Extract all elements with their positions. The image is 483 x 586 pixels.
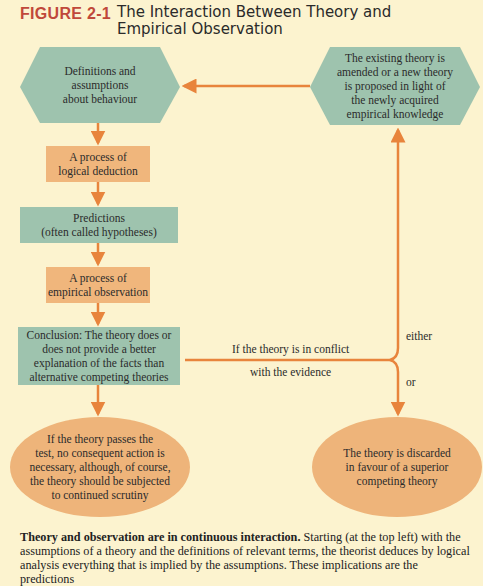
conclusion-line: Conclusion: The theory does or [27, 328, 172, 342]
amended-line: amended or a new theory [337, 65, 453, 79]
definitions-line: about behaviour [63, 92, 137, 106]
predictions-line: (often called hypotheses) [41, 225, 157, 239]
logical-deduction-line: logical deduction [58, 164, 138, 178]
caption-bold: Theory and observation are in continuous… [20, 530, 300, 544]
logical-deduction-line: A process of [58, 150, 138, 164]
discarded-node: The theory is discarded in favour of a s… [312, 417, 482, 517]
definitions-line: Definitions and [63, 64, 137, 78]
amended-line: the newly acquired [337, 93, 453, 107]
conclusion-node: Conclusion: The theory does or does not … [18, 327, 180, 385]
empirical-observation-line: empirical observation [48, 285, 148, 299]
predictions-line: Predictions [41, 211, 157, 225]
amended-line: empirical knowledge [337, 107, 453, 121]
empirical-observation-node: A process of empirical observation [46, 267, 150, 303]
passes-test-node: If the theory passes the test, no conseq… [10, 417, 190, 517]
discarded-line: competing theory [343, 474, 451, 488]
figure-caption: Theory and observation are in continuous… [20, 530, 470, 586]
definitions-node: Definitions and assumptions about behavi… [20, 47, 180, 123]
conclusion-line: alternative competing theories [27, 370, 172, 384]
or-label: or [406, 376, 416, 388]
passes-line: If the theory passes the [29, 432, 170, 446]
passes-line: necessary, although, of course, [29, 460, 170, 474]
conflict-label-top: If the theory is in conflict [232, 343, 349, 355]
discarded-line: The theory is discarded [343, 446, 451, 460]
logical-deduction-node: A process of logical deduction [46, 146, 150, 182]
empirical-observation-line: A process of [48, 271, 148, 285]
amended-line: is proposed in light of [337, 79, 453, 93]
conclusion-line: does not provide a better [27, 342, 172, 356]
passes-line: test, no consequent action is [29, 446, 170, 460]
passes-line: to continued scrutiny [29, 488, 170, 502]
amended-line: The existing theory is [337, 51, 453, 65]
passes-line: the theory should be subjected [29, 474, 170, 488]
discarded-line: in favour of a superior [343, 460, 451, 474]
either-label: either [406, 330, 432, 342]
definitions-line: assumptions [63, 78, 137, 92]
predictions-node: Predictions (often called hypotheses) [20, 207, 178, 243]
conflict-label-bottom: with the evidence [250, 366, 331, 378]
amended-node: The existing theory is amended or a new … [310, 47, 480, 125]
conclusion-line: explanation of the facts than [27, 356, 172, 370]
